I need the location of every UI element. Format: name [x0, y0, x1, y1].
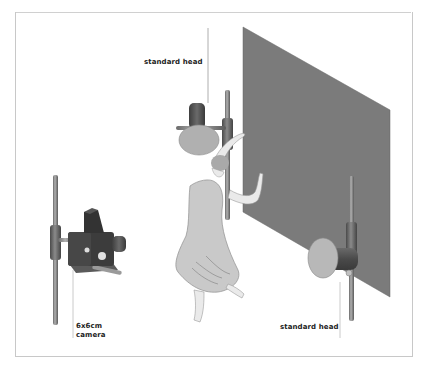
camera-label-line1: 6x6cm — [76, 322, 102, 331]
camera-label-line2: camera — [76, 331, 106, 340]
top-standard-head-label: standard head — [144, 58, 203, 67]
diagram-canvas — [0, 0, 432, 365]
6x6cm-camera — [68, 208, 126, 275]
bottom-standard-head-label: standard head — [280, 323, 339, 332]
